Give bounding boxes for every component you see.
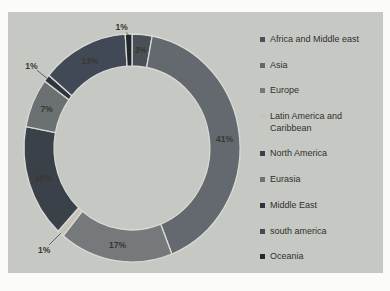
legend-label: Africa and Middle east <box>270 34 359 46</box>
chart-panel: 3%41%17%1%16%7%1%13%1% Africa and Middle… <box>8 12 383 273</box>
data-label-0: 3% <box>135 45 148 55</box>
legend-swatch-icon <box>260 151 265 156</box>
legend-item-0: Africa and Middle east <box>260 34 378 46</box>
leader-line-3 <box>49 233 61 245</box>
legend-swatch-icon <box>260 203 265 208</box>
legend-label: Eurasia <box>270 174 301 186</box>
legend-swatch-icon <box>260 177 265 182</box>
legend-item-3: Latin America and Caribbean <box>260 111 378 134</box>
legend-label: south america <box>270 226 327 238</box>
leader-line-6 <box>37 70 48 79</box>
legend-swatch-icon <box>260 254 265 259</box>
legend-item-2: Europe <box>260 85 378 97</box>
legend-swatch-icon <box>260 63 265 68</box>
legend-label: Asia <box>270 60 288 72</box>
donut-chart-figure: 3%41%17%1%16%7%1%13%1% Africa and Middle… <box>0 0 390 291</box>
data-label-8: 1% <box>115 22 128 32</box>
donut-slice-1 <box>147 36 240 254</box>
legend-swatch-icon <box>260 37 265 42</box>
chart-legend: Africa and Middle eastAsiaEuropeLatin Am… <box>260 34 378 263</box>
legend-item-8: Oceania <box>260 251 378 263</box>
data-label-4: 16% <box>35 173 52 183</box>
legend-label: Latin America and Caribbean <box>270 111 378 134</box>
data-label-6: 1% <box>25 61 38 71</box>
legend-label: Middle East <box>270 200 317 212</box>
donut-slice-2 <box>63 211 172 262</box>
legend-label: North America <box>270 148 327 160</box>
data-label-1: 41% <box>216 134 233 144</box>
legend-item-6: Middle East <box>260 200 378 212</box>
data-label-5: 7% <box>40 104 53 114</box>
legend-item-5: Eurasia <box>260 174 378 186</box>
legend-item-7: south america <box>260 226 378 238</box>
legend-label: Oceania <box>270 251 304 263</box>
legend-item-4: North America <box>260 148 378 160</box>
legend-item-1: Asia <box>260 60 378 72</box>
data-label-2: 17% <box>109 240 126 250</box>
legend-swatch-icon <box>260 114 265 119</box>
legend-swatch-icon <box>260 88 265 93</box>
legend-label: Europe <box>270 85 299 97</box>
donut-slice-8 <box>125 34 132 66</box>
data-label-3: 1% <box>38 245 51 255</box>
legend-swatch-icon <box>260 229 265 234</box>
data-label-7: 13% <box>81 56 98 66</box>
